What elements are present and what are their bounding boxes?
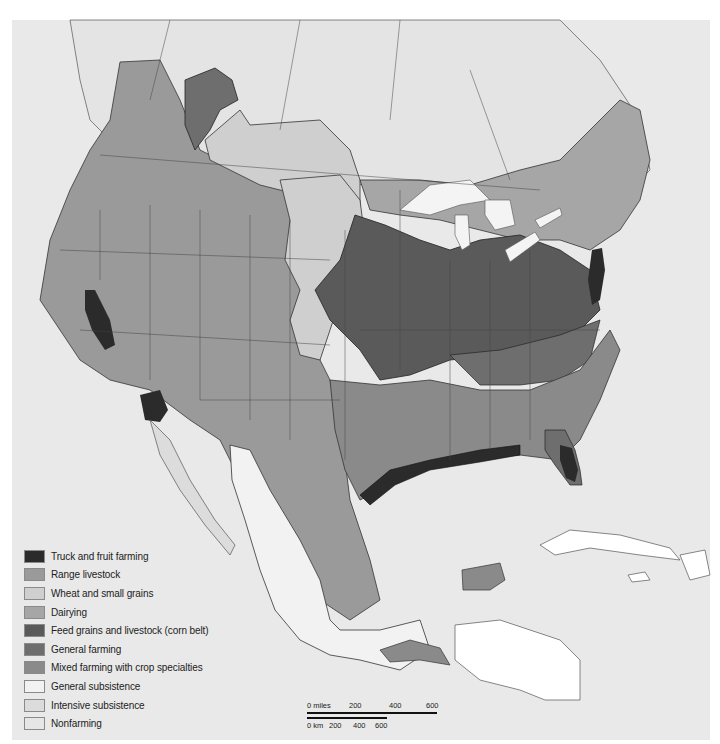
legend-swatch <box>24 661 45 674</box>
legend-label: General farming <box>51 644 121 655</box>
scale-km-600: 600 <box>375 721 388 730</box>
scale-miles-200: 200 <box>349 701 362 710</box>
legend-item-mixed-farming: Mixed farming with crop specialties <box>24 659 264 678</box>
legend-swatch <box>24 699 45 712</box>
legend-item-nonfarming: Nonfarming <box>24 714 264 733</box>
legend-label: Feed grains and livestock (corn belt) <box>51 625 209 636</box>
scale-bar: 0 miles 200 400 600 0 km 200 400 600 <box>307 701 437 731</box>
legend-item-range-livestock: Range livestock <box>24 566 264 585</box>
scale-miles-0: 0 miles <box>307 701 331 710</box>
legend-swatch <box>24 643 45 656</box>
legend-item-wheat: Wheat and small grains <box>24 584 264 603</box>
scale-bar-miles <box>307 712 437 714</box>
legend-item-corn-belt: Feed grains and livestock (corn belt) <box>24 621 264 640</box>
scale-miles-400: 400 <box>389 701 402 710</box>
legend-swatch <box>24 550 45 563</box>
legend-swatch <box>24 587 45 600</box>
scale-miles-600: 600 <box>426 701 439 710</box>
legend-swatch <box>24 717 45 730</box>
scale-bar-km <box>307 717 387 719</box>
scale-km-0: 0 km <box>307 721 323 730</box>
legend-label: Mixed farming with crop specialties <box>51 662 203 673</box>
scale-km-200: 200 <box>329 721 342 730</box>
legend-item-dairying: Dairying <box>24 603 264 622</box>
legend-label: Range livestock <box>51 569 120 580</box>
legend-swatch <box>24 680 45 693</box>
legend-label: Dairying <box>51 607 87 618</box>
legend-label: Wheat and small grains <box>51 588 153 599</box>
legend-item-truck-fruit: Truck and fruit farming <box>24 547 264 566</box>
legend-label: Nonfarming <box>51 718 102 729</box>
legend-swatch <box>24 606 45 619</box>
legend-item-intensive-subsistence: Intensive subsistence <box>24 696 264 715</box>
legend-item-general-farming: General farming <box>24 640 264 659</box>
legend-label: Truck and fruit farming <box>51 551 148 562</box>
legend-item-general-subsistence: General subsistence <box>24 677 264 696</box>
legend: Truck and fruit farming Range livestock … <box>24 547 264 733</box>
legend-label: General subsistence <box>51 681 140 692</box>
scale-km-400: 400 <box>353 721 366 730</box>
legend-label: Intensive subsistence <box>51 700 145 711</box>
legend-swatch <box>24 568 45 581</box>
legend-swatch <box>24 624 45 637</box>
